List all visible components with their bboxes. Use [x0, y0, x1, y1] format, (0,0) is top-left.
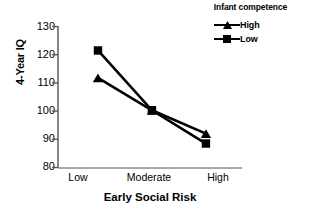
- data-point-high-lowrisk: [93, 73, 103, 82]
- series-high: [93, 73, 211, 138]
- plot-area: [0, 0, 317, 214]
- data-point-high-highrisk: [201, 129, 211, 138]
- series-low-line: [98, 50, 206, 143]
- y-tick-marks: [52, 27, 58, 168]
- series-high-line: [98, 78, 206, 134]
- data-point-low-lowrisk: [94, 46, 102, 54]
- series-low: [94, 46, 210, 147]
- chart-figure: Infant competence High: [0, 0, 317, 214]
- data-point-low-highrisk: [202, 139, 210, 147]
